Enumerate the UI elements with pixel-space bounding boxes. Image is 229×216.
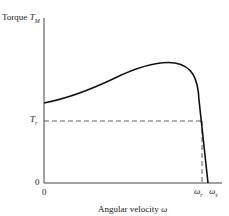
y-axis-title: Torque TM — [2, 12, 40, 24]
omega-r-label: ωr — [194, 186, 203, 198]
omega-s-label: ωs — [209, 186, 218, 198]
x-axis-title: Angular velocity ω — [98, 204, 167, 214]
torque-curve — [44, 63, 208, 183]
tr-label: Tr — [30, 114, 37, 126]
y-zero-label: 0 — [35, 177, 40, 187]
x-zero-label: 0 — [42, 187, 47, 197]
